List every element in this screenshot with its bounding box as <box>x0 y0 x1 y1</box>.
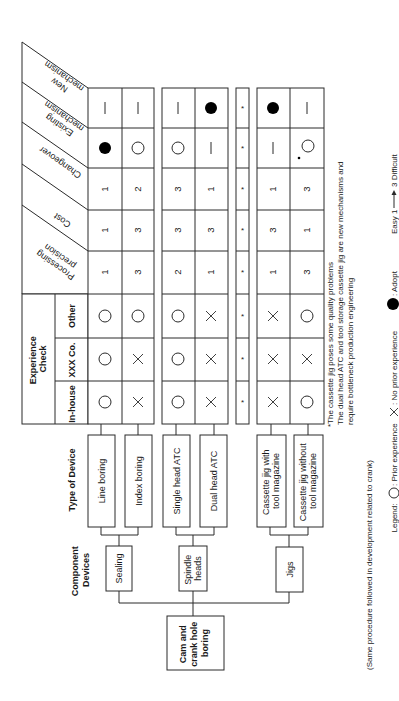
device-box-cassette-jig-with: Cassette jig with tool magazine <box>257 435 286 527</box>
prior-experience-icon <box>301 396 313 408</box>
component-box-spindle-heads: Spindle heads <box>179 546 207 591</box>
changeover-value: 3 <box>301 186 312 191</box>
legend-prior-experience: : Prior experience <box>390 423 399 486</box>
device-box-dual-head-atc: Dual head ATC <box>200 435 227 527</box>
component-label: Jigs <box>285 561 295 578</box>
header-processing-precision: Processing precision <box>32 239 82 282</box>
asterisk-mark: * <box>241 398 244 407</box>
note-line-3: require bottleneck production engineerin… <box>346 278 355 425</box>
procedure-note: (Same procedure followed in development … <box>365 460 374 670</box>
legend-adopt: : Adopt <box>390 270 399 296</box>
changeover-value: 3 <box>172 186 183 191</box>
type-of-device-label: Type of Device <box>67 449 77 512</box>
adopt-icon <box>99 142 111 154</box>
prior-experience-icon <box>172 142 184 154</box>
component-label: Sealing <box>114 553 124 583</box>
cost-value: 3 <box>205 227 216 232</box>
precision-value: 1 <box>99 269 110 274</box>
component-devices-label: Component Devices <box>70 544 91 597</box>
prior-experience-icon <box>172 353 184 365</box>
prior-experience-icon <box>172 396 184 408</box>
header-cost: Cost <box>51 211 72 230</box>
precision-value: 3 <box>132 269 143 274</box>
device-box-cassette-jig-without: Cassette jig without tool magazine <box>294 435 323 527</box>
cost-value: 1 <box>301 227 312 232</box>
precision-value: 1 <box>267 269 278 274</box>
component-label: Spindle heads <box>183 552 203 585</box>
legend: Legend: : Prior experience : No prior ex… <box>387 153 399 532</box>
device-box-line-boring: Line boring <box>88 435 115 527</box>
legend-scale-left: Easy 1 <box>390 209 399 234</box>
device-label: Cassette jig with tool magazine <box>261 447 281 515</box>
asterisk-mark: * <box>241 355 244 364</box>
asterisk-mark: * <box>241 185 244 194</box>
device-brackets <box>101 527 308 547</box>
evaluation-header: New mechanism Existing mechanism Changeo… <box>22 42 88 294</box>
cost-value: 3 <box>172 227 183 232</box>
header-existing-mechanism: Existing mechanism <box>37 99 86 142</box>
prior-experience-icon <box>172 310 184 322</box>
footnotes: *The cassette jig poses some quality pro… <box>326 161 355 427</box>
prior-experience-legend-icon <box>389 488 399 498</box>
prior-experience-icon <box>99 310 111 322</box>
grid-group-jigs <box>257 88 324 424</box>
grid-device-connectors <box>101 424 308 435</box>
no-prior-experience-legend-icon <box>390 408 398 416</box>
component-connectors <box>119 591 289 616</box>
grid-group-separator <box>236 88 249 424</box>
asterisk-mark: * <box>241 268 244 277</box>
legend-scale-right: 3 Difficult <box>390 153 399 187</box>
prior-experience-icon <box>302 140 314 152</box>
cost-value: 1 <box>99 227 110 232</box>
asterisk-mark: * <box>241 312 244 321</box>
device-box-single-head-atc: Single head ATC <box>163 435 190 527</box>
component-box-jigs: Jigs <box>276 547 303 592</box>
prior-experience-icon <box>99 396 111 408</box>
component-box-sealing: Sealing <box>106 546 132 591</box>
asterisk-mark: * <box>241 226 244 235</box>
prior-experience-icon <box>301 310 313 322</box>
asterisk-mark: * <box>241 144 244 153</box>
asterisk-mark: * <box>241 104 244 113</box>
device-label: Line boring <box>97 459 107 504</box>
precision-value: 2 <box>172 269 183 274</box>
precision-value: 3 <box>301 269 312 274</box>
header-other: Other <box>67 304 77 329</box>
changeover-value: 1 <box>205 186 216 191</box>
adopt-icon <box>267 102 279 114</box>
root-box-cam-crank-boring: Cam and crank hole boring <box>167 616 224 670</box>
scale-arrow-icon <box>392 190 397 208</box>
grid-group-spindle-heads <box>162 88 228 424</box>
note-line-1: *The cassette jig poses some quality pro… <box>326 262 335 427</box>
device-label: Dual head ATC <box>209 450 219 511</box>
prior-experience-icon <box>99 353 111 365</box>
legend-no-prior-experience: : No prior experience <box>390 330 399 405</box>
adopt-legend-icon <box>387 298 399 310</box>
precision-value: 1 <box>205 269 216 274</box>
device-label: Single head ATC <box>172 447 182 514</box>
asterisk-dot <box>298 157 301 160</box>
device-box-index-boring: Index boring <box>125 435 152 527</box>
header-new-mechanism: New mechanism <box>37 59 86 102</box>
header-xxx-co: XXX Co. <box>67 342 77 377</box>
adopt-icon <box>205 102 217 114</box>
header-changeover: Changeover <box>37 144 83 180</box>
changeover-value: 2 <box>132 186 143 191</box>
cost-value: 3 <box>132 227 143 232</box>
experience-check-header: Experience Check Other XXX Co. In-house <box>22 294 88 424</box>
diagram-canvas: New mechanism Existing mechanism Changeo… <box>0 0 399 701</box>
header-in-house: In-house <box>67 385 77 423</box>
cost-value: 3 <box>267 227 278 232</box>
prior-experience-icon <box>132 310 144 322</box>
legend-title: Legend: <box>390 504 399 533</box>
note-line-2: The dual head ATC and tool storage casse… <box>336 161 345 425</box>
changeover-value: 1 <box>267 186 278 191</box>
device-label: Index boring <box>134 456 144 506</box>
changeover-value: 1 <box>99 186 110 191</box>
prior-experience-icon <box>132 142 144 154</box>
grid-group-sealing <box>88 88 154 424</box>
